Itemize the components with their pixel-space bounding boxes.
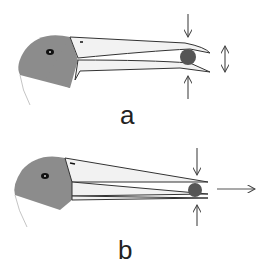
panel-label-a: a (120, 100, 134, 131)
panel-a-bird-head (18, 35, 78, 105)
panel-b-beak (65, 158, 208, 200)
panel-label-b: b (118, 235, 132, 266)
panel-b-bird-head (14, 157, 72, 228)
diagram-canvas (0, 0, 264, 270)
food-item-b (188, 183, 202, 197)
food-item-a (180, 49, 196, 65)
